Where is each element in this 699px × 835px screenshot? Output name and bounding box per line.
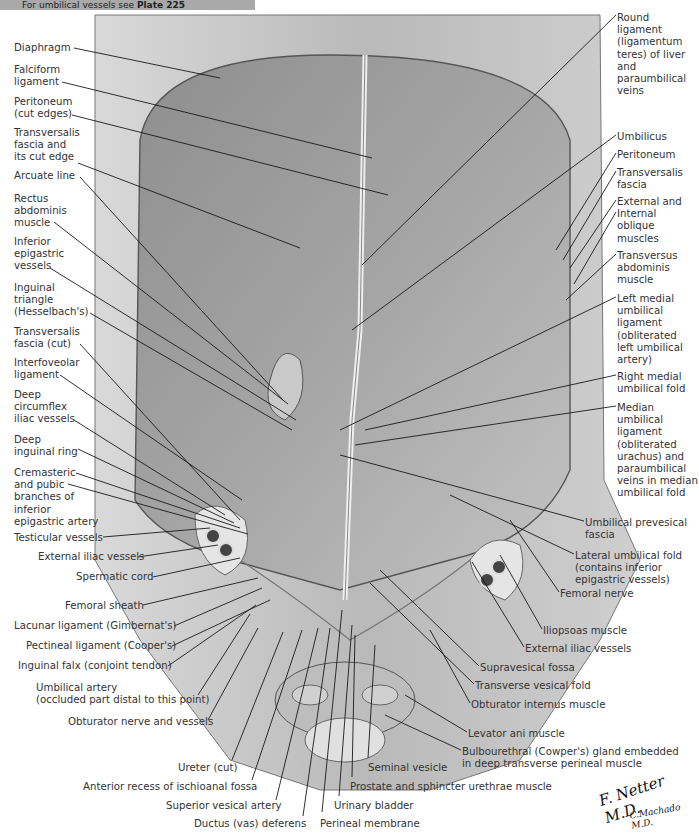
label-text: Left medial — [617, 293, 683, 305]
label-text: inguinal ring — [14, 446, 78, 458]
label-text: (occluded part distal to this point) — [36, 694, 209, 706]
label-text: veins in median — [617, 475, 698, 487]
label-text: (Hesselbach's) — [14, 306, 88, 318]
label-text: Falciform — [14, 64, 60, 76]
label-text: epigastric — [14, 248, 64, 260]
label-text: Transversalis — [617, 167, 683, 179]
label-text: and pubic — [14, 479, 98, 491]
label-text: Spermatic cord — [76, 571, 153, 583]
label-text: Femoral sheath — [65, 600, 144, 612]
label-text: paraumbilical — [617, 463, 698, 475]
label-text: Obturator internus muscle — [471, 699, 605, 711]
label-text: Transversalis — [14, 127, 80, 139]
label-transversus-abdominis: Transversusabdominismuscle — [617, 250, 677, 287]
label-text: circumflex — [14, 401, 75, 413]
label-text: in deep transverse perineal muscle — [462, 758, 679, 770]
label-text: left umbilical — [617, 342, 683, 354]
label-deep-inguinal-ring: Deepinguinal ring — [14, 434, 78, 458]
label-prostate: Prostate and sphincter urethrae muscle — [350, 781, 552, 793]
label-peritoneum: Peritoneum — [617, 149, 675, 161]
label-bulbourethral-gland: Bulbourethral (Cowper's) gland embeddedi… — [462, 746, 679, 770]
label-text: Round — [617, 12, 686, 24]
label-text: Levator ani muscle — [468, 728, 565, 740]
label-text: Testicular vessels — [14, 532, 103, 544]
label-text: Inferior — [14, 236, 64, 248]
label-obturator-nerve: Obturator nerve and vessels — [68, 716, 213, 728]
label-text: Obturator nerve and vessels — [68, 716, 213, 728]
label-interfoveolar: Interfoveolarligament — [14, 357, 80, 381]
label-left-medial-umbilical-ligament: Left medialumbilicalligament(obliterated… — [617, 293, 683, 366]
label-text: and — [617, 61, 686, 73]
label-pectineal-ligament: Pectineal ligament (Cooper's) — [26, 640, 176, 652]
label-spermatic-cord: Spermatic cord — [76, 571, 153, 583]
label-text: abdominis — [14, 205, 67, 217]
label-text: Inguinal falx (conjoint tendon) — [18, 660, 172, 672]
label-text: Transverse vesical fold — [475, 680, 591, 692]
label-lateral-umbilical-fold: Lateral umbilical fold(contains inferior… — [575, 550, 682, 587]
label-text: Cremasteric — [14, 467, 98, 479]
label-text: Interfoveolar — [14, 357, 80, 369]
label-cremasteric-pubic: Cremastericand pubicbranches ofinferiore… — [14, 467, 98, 528]
label-text: fascia (cut) — [14, 338, 80, 350]
label-inguinal-falx: Inguinal falx (conjoint tendon) — [18, 660, 172, 672]
label-text: (obliterated — [617, 439, 698, 451]
label-umbilical-artery: Umbilical artery(occluded part distal to… — [36, 682, 209, 706]
label-text: muscle — [14, 217, 67, 229]
label-text: fascia — [585, 529, 687, 541]
label-text: umbilical — [617, 414, 698, 426]
label-urinary-bladder: Urinary bladder — [334, 800, 414, 812]
label-text: Supravesical fossa — [480, 662, 575, 674]
label-umbilical-prevesical-fascia: Umbilical prevesicalfascia — [585, 517, 687, 541]
label-text: Diaphragm — [14, 42, 71, 53]
label-text: teres) of liver — [617, 49, 686, 61]
label-ureter-cut: Ureter (cut) — [178, 762, 237, 774]
external-iliac-vessel-right — [480, 573, 494, 587]
label-ductus-deferens: Ductus (vas) deferens — [194, 818, 306, 830]
label-text: Peritoneum — [14, 96, 72, 108]
label-text: muscle — [617, 274, 677, 286]
label-diaphragm: Diaphragm — [14, 42, 71, 54]
label-text: epigastric vessels) — [575, 574, 682, 586]
label-text: abdominis — [617, 262, 677, 274]
external-iliac-vessel-left — [206, 529, 220, 543]
label-femoral-sheath: Femoral sheath — [65, 600, 144, 612]
label-text: vessels — [14, 260, 64, 272]
label-text: ligament — [617, 317, 683, 329]
label-text: umbilical fold — [617, 487, 698, 499]
label-text: iliac vessels — [14, 413, 75, 425]
label-text: triangle — [14, 294, 88, 306]
label-text: Right medial — [617, 371, 685, 383]
label-text: Femoral nerve — [560, 588, 633, 600]
label-text: External and — [617, 196, 682, 208]
label-text: umbilical fold — [617, 383, 685, 395]
label-text: (contains inferior — [575, 562, 682, 574]
label-text: urachus) and — [617, 451, 698, 463]
label-text: Rectus — [14, 193, 67, 205]
label-median-umbilical-ligament: Medianumbilicalligament(obliteratedurach… — [617, 402, 698, 500]
label-right-medial-umbilical-fold: Right medialumbilical fold — [617, 371, 685, 395]
label-external-iliac-right: External iliac vessels — [525, 643, 631, 655]
label-text: fascia and — [14, 139, 80, 151]
label-transversalis-cut-edge: Transversalisfascia andits cut edge — [14, 127, 80, 164]
label-text: ligament — [617, 24, 686, 36]
label-text: (ligamentum — [617, 36, 686, 48]
label-text: Transversus — [617, 250, 677, 262]
label-seminal-vesicle: Seminal vesicle — [368, 762, 447, 774]
label-umbilicus: Umbilicus — [617, 131, 667, 143]
label-text: its cut edge — [14, 151, 80, 163]
label-text: Umbilicus — [617, 131, 667, 143]
label-levator-ani: Levator ani muscle — [468, 728, 565, 740]
label-testicular-vessels: Testicular vessels — [14, 532, 103, 544]
label-text: oblique — [617, 220, 682, 232]
prostate-shape — [305, 718, 385, 762]
label-text: Arcuate line — [14, 170, 75, 182]
label-text: Bulbourethral (Cowper's) gland embedded — [462, 746, 679, 758]
label-text: Umbilical artery — [36, 682, 209, 694]
label-femoral-nerve: Femoral nerve — [560, 588, 633, 600]
label-oblique-muscles: External andInternalobliquemuscles — [617, 196, 682, 245]
peritoneal-cavity — [135, 55, 570, 590]
label-text: (cut edges) — [14, 108, 72, 120]
label-text: Inguinal — [14, 282, 88, 294]
label-supravesical-fossa: Supravesical fossa — [480, 662, 575, 674]
label-transversalis-fascia: Transversalisfascia — [617, 167, 683, 191]
